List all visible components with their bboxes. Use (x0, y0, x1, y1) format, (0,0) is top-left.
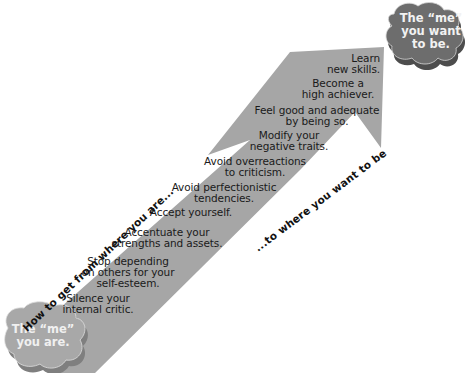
step-7: Modify your negative traits. (242, 130, 336, 152)
step-10: Learn new skills. (316, 53, 380, 75)
step-9: Become a high achiever. (296, 78, 380, 100)
step-2: Stop depending on others for your self-e… (78, 256, 178, 289)
goal-cloud-line1: The “me” (400, 11, 463, 25)
step-5: Avoid perfectionistic tendencies. (168, 182, 280, 204)
step-1: Silence your internal critic. (58, 293, 138, 315)
start-cloud-line2: you are. (16, 335, 69, 349)
step-4: Accept yourself. (148, 207, 234, 218)
step-6: Avoid overreactions to criticism. (200, 156, 310, 178)
step-8: Feel good and adequate by being so. (254, 105, 380, 127)
start-cloud-label: The “me” you are. (10, 323, 76, 349)
goal-cloud-line2: you want (401, 24, 461, 38)
goal-cloud-label: The “me” you want to be. (399, 12, 463, 51)
step-3: Accentuate your strengths and assets. (104, 227, 230, 249)
goal-cloud-line3: to be. (412, 37, 450, 51)
